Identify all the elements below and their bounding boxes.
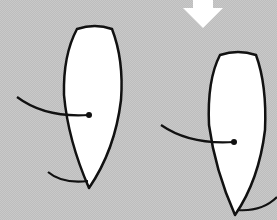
down-arrow-icon bbox=[183, 0, 223, 28]
blade-right bbox=[161, 52, 277, 215]
blade-left bbox=[17, 26, 122, 188]
illustration-svg bbox=[0, 0, 277, 220]
illustration-canvas bbox=[0, 0, 277, 220]
